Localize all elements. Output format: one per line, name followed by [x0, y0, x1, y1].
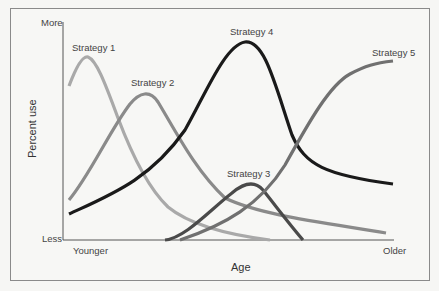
y-axis-label: Percent use: [26, 99, 38, 158]
label-strategy-3: Strategy 3: [227, 168, 270, 179]
strategy-4-curve: [69, 42, 393, 214]
y-tick-less: Less: [42, 233, 62, 244]
x-axis-label: Age: [231, 261, 251, 273]
y-tick-more: More: [41, 17, 63, 28]
x-tick-younger: Younger: [73, 245, 108, 256]
label-strategy-5: Strategy 5: [372, 47, 415, 58]
x-tick-older: Older: [383, 245, 406, 256]
strategy-5-curve: [180, 61, 393, 240]
strategy-3-curve: [165, 184, 303, 240]
label-strategy-1: Strategy 1: [72, 42, 115, 53]
label-strategy-2: Strategy 2: [131, 77, 174, 88]
label-strategy-4: Strategy 4: [230, 26, 273, 37]
chart-plot: [0, 0, 439, 291]
